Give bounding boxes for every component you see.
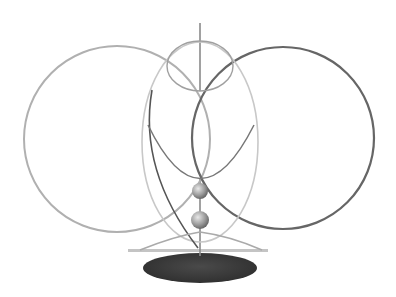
lower-curve-left — [140, 232, 262, 250]
diagram-canvas — [0, 0, 396, 297]
bowl-arc — [148, 125, 254, 179]
base-ellipse — [143, 253, 257, 283]
base-bar — [128, 249, 268, 252]
ring-sculpture-diagram — [0, 0, 396, 297]
egg-inner-arc — [149, 90, 198, 248]
upper-sphere — [192, 183, 208, 199]
left-ring — [24, 46, 210, 232]
right-ring — [192, 47, 374, 229]
lower-sphere — [191, 211, 209, 229]
